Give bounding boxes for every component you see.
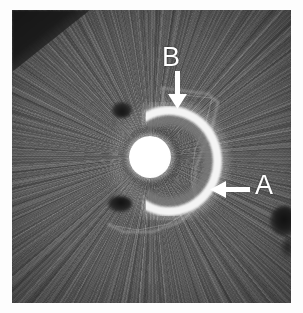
central-dense-core bbox=[129, 136, 171, 178]
crescent-notch-top bbox=[112, 102, 132, 118]
scan-image-plate: B A bbox=[12, 10, 291, 303]
annotation-arrow-b-down-arrow-icon bbox=[165, 71, 191, 111]
dark-blob-right-lower bbox=[280, 238, 291, 260]
annotation-arrow-a-left-arrow-icon bbox=[210, 178, 250, 202]
dark-blob-right bbox=[270, 206, 291, 236]
crescent-notch-bottom bbox=[108, 196, 132, 212]
annotation-label-b: B bbox=[162, 44, 180, 71]
annotation-label-a: A bbox=[255, 172, 273, 199]
figure-root: B A bbox=[0, 0, 303, 313]
